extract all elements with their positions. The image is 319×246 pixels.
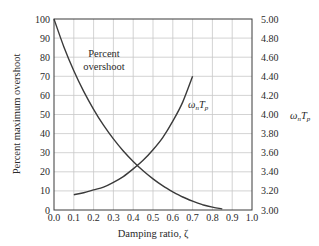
x-axis-ticks: 0.00.10.20.30.40.50.60.70.80.91.0 bbox=[48, 212, 259, 223]
y-tick-label: 60 bbox=[40, 90, 50, 101]
grid-lines bbox=[54, 19, 252, 210]
y-tick-label: 10 bbox=[40, 185, 50, 196]
y-tick-label: 50 bbox=[40, 109, 50, 120]
x-tick-label: 0.6 bbox=[167, 212, 180, 223]
right-tick-label: 4.20 bbox=[261, 90, 279, 101]
y-tick-label: 40 bbox=[40, 128, 50, 139]
y-tick-label: 30 bbox=[40, 147, 50, 158]
x-axis-label: Damping ratio, ζ bbox=[118, 228, 189, 240]
right-tick-label: 4.00 bbox=[261, 109, 279, 120]
left-y-axis-ticks: 0102030405060708090100 bbox=[35, 14, 50, 216]
right-tick-label: 4.40 bbox=[261, 71, 279, 82]
x-tick-label: 0.7 bbox=[186, 212, 199, 223]
right-tick-label: 3.80 bbox=[261, 128, 279, 139]
right-axis-label: ωnTp bbox=[290, 110, 311, 123]
annotation-percent-line2: overshoot bbox=[83, 61, 124, 72]
y-tick-label: 20 bbox=[40, 166, 50, 177]
x-tick-label: 0.5 bbox=[147, 212, 160, 223]
chart-canvas: 0.00.10.20.30.40.50.60.70.80.91.0 010203… bbox=[0, 0, 319, 246]
percent-overshoot-curve bbox=[54, 19, 222, 209]
y-tick-label: 100 bbox=[35, 14, 50, 25]
right-tick-label: 3.60 bbox=[261, 147, 279, 158]
right-tick-label: 3.20 bbox=[261, 185, 279, 196]
annotation-percent-line1: Percent bbox=[88, 48, 120, 59]
x-tick-label: 0.4 bbox=[127, 212, 140, 223]
y-tick-label: 0 bbox=[45, 205, 50, 216]
annotation-wntp: ωnTp bbox=[188, 99, 209, 112]
y-axis-label: Percent maximum overshoot bbox=[11, 54, 22, 175]
y-tick-label: 70 bbox=[40, 71, 50, 82]
right-y-axis-ticks: 3.003.203.403.603.804.004.204.404.604.80… bbox=[261, 14, 279, 216]
x-tick-label: 0.2 bbox=[87, 212, 100, 223]
right-tick-label: 3.00 bbox=[261, 205, 279, 216]
x-tick-label: 0.3 bbox=[107, 212, 120, 223]
right-tick-label: 4.80 bbox=[261, 33, 279, 44]
right-tick-label: 5.00 bbox=[261, 14, 279, 25]
x-tick-label: 0.1 bbox=[68, 212, 81, 223]
right-tick-label: 3.40 bbox=[261, 166, 279, 177]
x-tick-label: 0.8 bbox=[206, 212, 219, 223]
y-tick-label: 80 bbox=[40, 52, 50, 63]
x-tick-label: 1.0 bbox=[246, 212, 259, 223]
x-tick-label: 0.9 bbox=[226, 212, 239, 223]
right-tick-label: 4.60 bbox=[261, 52, 279, 63]
y-tick-label: 90 bbox=[40, 33, 50, 44]
